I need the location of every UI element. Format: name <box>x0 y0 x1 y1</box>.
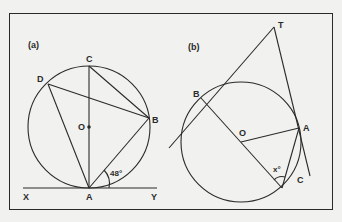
radius-oa <box>241 128 299 142</box>
point-o-label-b: O <box>239 128 246 138</box>
point-a-label-b: A <box>303 123 310 133</box>
diameter-bc <box>201 98 282 188</box>
point-d-label: D <box>37 74 44 84</box>
geometry-figure: (a) C D O B A X Y 48° (b) T B O A C x° <box>0 0 342 222</box>
point-b-label-b: B <box>193 89 200 99</box>
chord-db <box>48 84 149 118</box>
panel-a <box>23 66 157 188</box>
point-y-label: Y <box>151 192 157 202</box>
panel-b-label: (b) <box>188 42 200 52</box>
point-c-label-b: C <box>297 175 304 185</box>
center-dot-a <box>88 126 90 128</box>
point-t-label: T <box>278 20 284 30</box>
point-a-label: A <box>86 192 93 202</box>
panel-b <box>169 27 310 202</box>
panel-a-label: (a) <box>28 40 39 50</box>
point-x-label: X <box>23 192 29 202</box>
angle-label-x: x° <box>273 165 281 174</box>
angle-label-48: 48° <box>110 169 122 178</box>
chord-da <box>48 84 89 188</box>
point-c-label: C <box>86 54 93 64</box>
point-o-label: O <box>78 122 85 132</box>
tangent-line-tb <box>169 27 274 148</box>
point-b-label: B <box>152 115 159 125</box>
angle-arc-x <box>274 177 285 180</box>
